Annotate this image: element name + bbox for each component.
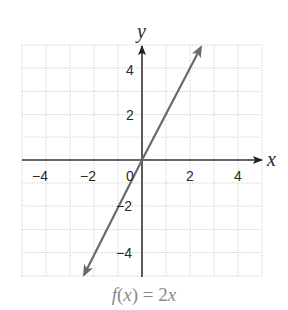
caption-variable-2: x [168,284,176,305]
y-tick-label: −2 [116,198,132,214]
y-tick-label: 2 [126,107,134,123]
x-axis-label: x [266,148,276,170]
x-tick-label: −4 [32,168,48,184]
x-tick-label: 4 [234,168,242,184]
x-tick-label: 0 [126,168,134,184]
function-line [142,47,201,160]
chart-caption: f(x) = 2x [0,284,288,306]
x-tick-label: 2 [186,168,194,184]
caption-variable: x [123,284,131,305]
y-tick-label: −4 [116,245,132,261]
y-axis-label: y [135,20,146,43]
x-tick-label: −2 [80,168,96,184]
caption-equals: ) = 2 [132,284,168,305]
function-graph: y x −4 −2 0 2 4 4 2 −2 −4 [0,0,288,310]
y-tick-label: 4 [126,62,134,78]
